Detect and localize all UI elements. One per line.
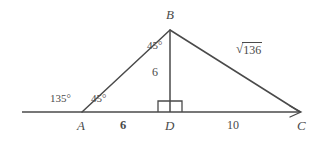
radical-expression: √136 [236, 42, 262, 57]
radicand: 136 [242, 42, 262, 57]
vertex-label-A: A [77, 119, 85, 132]
segment-BC [170, 30, 300, 112]
geometry-figure: B A D C 6 10 6 135° 45° 45° √136 [0, 0, 328, 144]
measure-label-segment-DC: 10 [227, 119, 239, 131]
angle-label-exterior-at-A: 135° [50, 93, 71, 104]
angle-label-interior-at-A: 45° [91, 93, 106, 104]
triangle-diagram-svg [0, 0, 328, 144]
measure-label-segment-BC: √136 [236, 42, 262, 57]
angle-label-at-B: 45° [147, 40, 162, 51]
measure-label-segment-AD: 6 [120, 119, 126, 132]
vertex-label-B: B [166, 8, 174, 21]
vertex-label-D: D [165, 119, 174, 132]
measure-label-altitude-BD: 6 [152, 66, 158, 78]
vertex-label-C: C [297, 119, 306, 132]
